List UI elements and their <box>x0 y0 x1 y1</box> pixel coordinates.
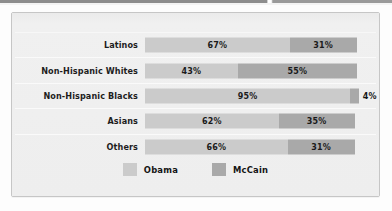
stacked-bar-latinos: 67% 31% <box>145 38 361 53</box>
bar-value-label: 95% <box>238 91 258 100</box>
bar-value-label: 66% <box>206 142 226 151</box>
bar-value-label: 43% <box>182 66 202 75</box>
legend-swatch-obama <box>123 163 137 176</box>
table-row: Non-Hispanic Whites 43% 55% <box>15 57 376 82</box>
bar-segment-mccain: 31% <box>290 38 357 53</box>
bar-area-non-hispanic-whites: 43% 55% <box>144 58 376 82</box>
stacked-bar-others: 66% 31% <box>145 139 361 154</box>
legend-swatch-mccain <box>212 163 226 176</box>
bar-segment-mccain: 31% <box>288 139 355 154</box>
chart-rows: Latinos 67% 31% Non-Hispanic Whites <box>15 32 376 154</box>
bar-value-label: 62% <box>202 117 222 126</box>
bar-value-label: 4% <box>363 91 377 100</box>
row-label-asians: Asians <box>15 116 144 126</box>
bar-value-label: 55% <box>287 66 307 75</box>
stacked-bar-non-hispanic-whites: 43% 55% <box>145 63 361 78</box>
bar-segment-mccain: 35% <box>279 114 355 129</box>
bar-area-others: 66% 31% <box>144 135 376 159</box>
table-row: Latinos 67% 31% <box>15 32 376 57</box>
legend-item-obama: Obama <box>123 163 178 176</box>
legend-label-mccain: McCain <box>233 165 268 175</box>
bar-segment-obama: 67% <box>145 38 290 53</box>
bar-area-latinos: 67% 31% <box>144 33 376 57</box>
row-label-non-hispanic-whites: Non-Hispanic Whites <box>15 66 144 76</box>
bar-value-label: 31% <box>313 41 333 50</box>
bar-segment-obama: 95% <box>145 88 350 103</box>
table-row: Asians 62% 35% <box>15 108 376 133</box>
legend-item-mccain: McCain <box>212 163 268 176</box>
bar-value-label: 35% <box>307 117 327 126</box>
chart-frame: Latinos 67% 31% Non-Hispanic Whites <box>11 12 380 197</box>
bar-segment-obama: 62% <box>145 114 279 129</box>
bar-segment-obama: 43% <box>145 63 238 78</box>
stacked-bar-asians: 62% 35% <box>145 114 361 129</box>
screenshot-canvas: Latinos 67% 31% Non-Hispanic Whites <box>0 0 392 211</box>
table-row: Others 66% 31% <box>15 134 376 159</box>
row-label-non-hispanic-blacks: Non-Hispanic Blacks <box>15 91 144 101</box>
chart-legend: Obama McCain <box>12 163 379 176</box>
bar-segment-obama: 66% <box>145 139 288 154</box>
row-label-latinos: Latinos <box>15 40 144 50</box>
row-label-others: Others <box>15 142 144 152</box>
bar-area-non-hispanic-blacks: 95% 4% <box>144 84 376 108</box>
bar-value-label: 67% <box>207 41 227 50</box>
bar-segment-mccain: 4% <box>350 88 359 103</box>
bar-value-label: 31% <box>311 142 331 151</box>
bar-segment-mccain: 55% <box>238 63 357 78</box>
stacked-bar-non-hispanic-blacks: 95% 4% <box>145 88 361 103</box>
table-row: Non-Hispanic Blacks 95% 4% <box>15 83 376 108</box>
bar-area-asians: 62% 35% <box>144 109 376 133</box>
page-top-edge-fade <box>0 3 392 5</box>
legend-label-obama: Obama <box>144 165 178 175</box>
